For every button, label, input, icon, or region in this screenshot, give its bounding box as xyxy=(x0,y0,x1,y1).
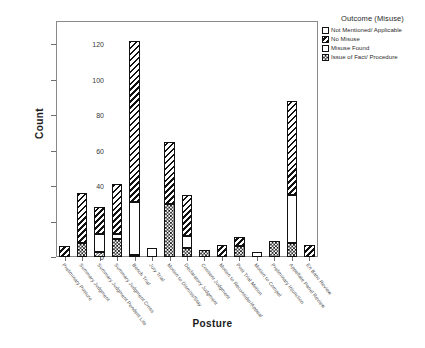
legend-item-label: No Misuse xyxy=(331,36,360,42)
bar-3 xyxy=(94,207,105,257)
bar-segment xyxy=(112,184,123,234)
legend-swatch-icon xyxy=(322,54,329,61)
bar-segment xyxy=(164,142,175,204)
legend-item-label: Not Mentioned/ Applicable xyxy=(331,27,402,33)
bar-8 xyxy=(182,195,193,257)
chart-root: Count Posture 020406080100120 Preliminar… xyxy=(0,0,425,348)
legend-item[interactable]: Misuse Found xyxy=(322,44,423,52)
x-tick-mark xyxy=(187,257,188,261)
x-tick-mark xyxy=(292,257,293,261)
bar-segment xyxy=(112,234,123,239)
bar-segment xyxy=(77,243,88,257)
legend-item-label: Issue of Fact/ Procedure xyxy=(331,54,398,60)
bar-segment xyxy=(129,202,140,255)
x-tick-mark xyxy=(82,257,83,261)
y-tick-label: 120 xyxy=(64,41,104,48)
bar-segment xyxy=(252,252,263,257)
legend-items: Not Mentioned/ ApplicableNo MisuseMisuse… xyxy=(322,26,423,61)
bar-segment xyxy=(182,236,193,248)
y-tick-mark xyxy=(51,257,56,258)
x-tick-mark xyxy=(309,257,310,261)
bar-segment xyxy=(217,245,228,257)
legend-item[interactable]: No Misuse xyxy=(322,35,423,43)
y-tick-mark xyxy=(51,115,56,116)
bar-segment xyxy=(164,204,175,257)
bar-segment xyxy=(112,239,123,257)
x-tick-mark xyxy=(222,257,223,261)
y-tick-label: 60 xyxy=(64,147,104,154)
y-tick-mark xyxy=(51,151,56,152)
bar-segment xyxy=(234,237,245,246)
y-tick-mark xyxy=(51,222,56,223)
bar-11 xyxy=(234,237,245,257)
bar-7 xyxy=(164,142,175,257)
legend-item[interactable]: Not Mentioned/ Applicable xyxy=(322,26,423,34)
bar-6 xyxy=(147,248,158,257)
bar-12 xyxy=(252,252,263,257)
bar-10 xyxy=(217,245,228,257)
bar-segment xyxy=(94,234,105,252)
bar-segment xyxy=(77,193,88,243)
y-tick-label: 40 xyxy=(64,183,104,190)
legend: Outcome (Misuse) Not Mentioned/ Applicab… xyxy=(322,14,423,62)
bar-15 xyxy=(304,245,315,257)
y-tick-label: 100 xyxy=(64,76,104,83)
bar-14 xyxy=(287,101,298,257)
x-tick-mark xyxy=(152,257,153,261)
bar-segment xyxy=(182,248,193,257)
x-tick-mark xyxy=(204,257,205,261)
x-tick-label: Jury Trial xyxy=(148,262,166,282)
y-tick-mark xyxy=(51,186,56,187)
bar-segment xyxy=(129,255,140,257)
y-tick-mark xyxy=(51,80,56,81)
bar-segment xyxy=(59,246,70,257)
x-axis-title: Posture xyxy=(0,318,425,329)
bar-5 xyxy=(129,41,140,257)
x-tick-mark xyxy=(65,257,66,261)
bar-segment xyxy=(287,101,298,195)
bar-segment xyxy=(199,250,210,257)
bar-segment xyxy=(94,207,105,234)
bar-segment xyxy=(269,241,280,257)
bar-segment xyxy=(304,245,315,257)
x-tick-mark xyxy=(117,257,118,261)
bar-segment xyxy=(287,243,298,257)
legend-item[interactable]: Issue of Fact/ Procedure xyxy=(322,53,423,61)
x-tick-mark xyxy=(100,257,101,261)
bar-segment xyxy=(94,252,105,257)
x-tick-label: Preliminary Injunction xyxy=(271,262,307,305)
legend-title: Outcome (Misuse) xyxy=(322,14,423,23)
x-tick-mark xyxy=(170,257,171,261)
y-tick-mark xyxy=(51,44,56,45)
x-tick-label: Summary Judgment xyxy=(78,262,111,302)
x-tick-mark xyxy=(135,257,136,261)
bar-1 xyxy=(59,246,70,257)
bar-segment xyxy=(147,248,158,257)
legend-swatch-icon xyxy=(322,27,329,34)
y-tick-label: 80 xyxy=(64,112,104,119)
x-tick-label: Preliminary Posture xyxy=(61,262,94,302)
x-tick-mark xyxy=(239,257,240,261)
legend-swatch-icon xyxy=(322,45,329,52)
bar-13 xyxy=(269,241,280,257)
bar-9 xyxy=(199,250,210,257)
y-axis-title: Count xyxy=(34,79,45,169)
bar-segment xyxy=(129,41,140,202)
bar-segment xyxy=(287,195,298,243)
bar-4 xyxy=(112,184,123,257)
x-tick-mark xyxy=(274,257,275,261)
legend-swatch-icon xyxy=(322,36,329,43)
x-tick-mark xyxy=(257,257,258,261)
legend-item-label: Misuse Found xyxy=(331,45,369,51)
bar-segment xyxy=(182,195,193,236)
bar-2 xyxy=(77,193,88,257)
bar-segment xyxy=(234,246,245,257)
